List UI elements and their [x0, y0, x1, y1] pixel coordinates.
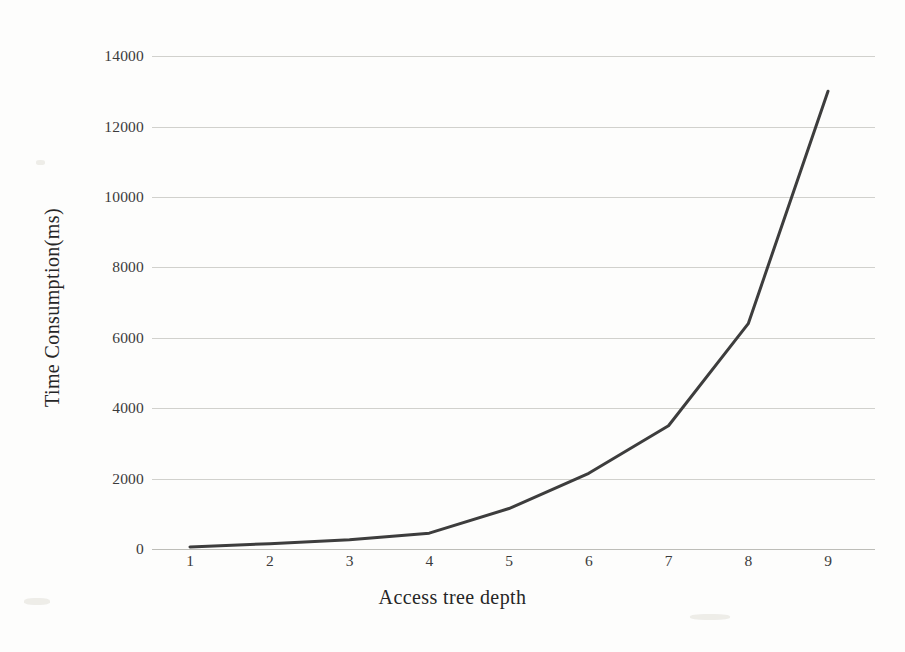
y-tick-label: 0	[136, 541, 144, 557]
y-tick-label: 6000	[112, 330, 144, 346]
y-tick-label: 10000	[104, 189, 144, 205]
scan-artifact	[690, 614, 730, 620]
x-tick-label: 3	[346, 553, 354, 569]
x-tick-label: 9	[824, 553, 832, 569]
x-axis-title: Access tree depth	[0, 586, 905, 609]
x-tick-label: 4	[425, 553, 433, 569]
gridline-0	[152, 549, 875, 550]
x-tick-label: 8	[744, 553, 752, 569]
x-tick-label: 5	[505, 553, 513, 569]
x-tick-label: 7	[665, 553, 673, 569]
y-tick-label: 8000	[112, 260, 144, 276]
series-line-time-consumption	[190, 91, 828, 547]
y-tick-label: 12000	[104, 119, 144, 135]
x-tick-label: 6	[585, 553, 593, 569]
y-axis-title: Time Consumption(ms)	[41, 158, 64, 458]
x-tick-label: 1	[186, 553, 194, 569]
y-tick-label: 2000	[112, 471, 144, 487]
y-tick-label: 4000	[112, 400, 144, 416]
chart-figure: 02000400060008000100001200014000 1234567…	[0, 0, 905, 652]
x-axis-tick-labels: 123456789	[152, 553, 875, 579]
y-tick-label: 14000	[104, 48, 144, 64]
y-axis-tick-labels: 02000400060008000100001200014000	[52, 42, 144, 549]
x-tick-label: 2	[266, 553, 274, 569]
plot-area	[152, 42, 875, 549]
series-line-chart	[152, 42, 875, 549]
